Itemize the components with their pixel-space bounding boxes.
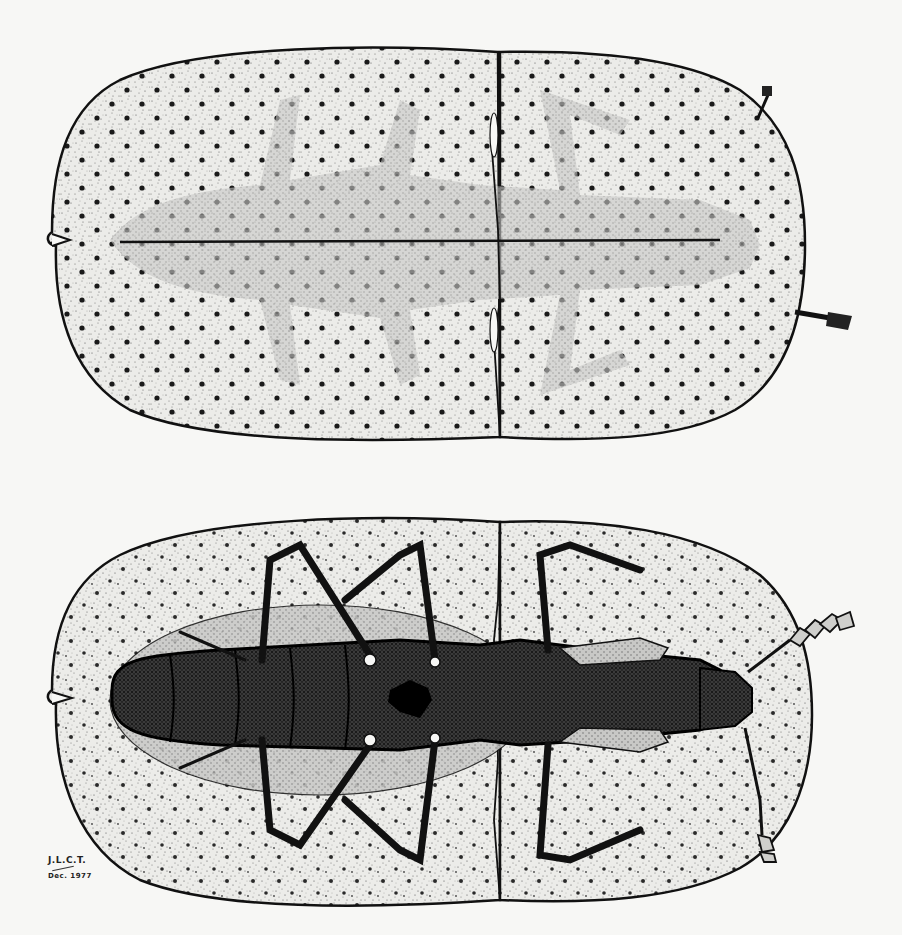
beetle-illustration: J.L.C.T. Dec. 1977 xyxy=(0,0,902,935)
artist-signature: J.L.C.T. Dec. 1977 xyxy=(48,855,92,881)
signature-date: Dec. 1977 xyxy=(48,872,92,880)
signature-flourish xyxy=(52,866,74,872)
dorsal-antenna-bottom xyxy=(795,312,852,330)
ventral-view xyxy=(48,518,854,905)
signature-initials: J.L.C.T. xyxy=(48,855,86,865)
illustration-canvas xyxy=(0,0,902,935)
dorsal-view xyxy=(48,48,852,440)
